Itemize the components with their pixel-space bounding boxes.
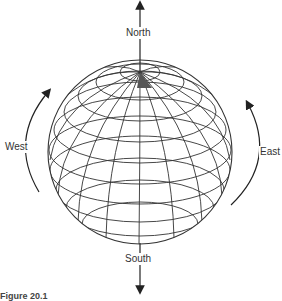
north-label: North bbox=[125, 27, 151, 39]
east-rotation-arrow bbox=[231, 104, 260, 205]
west-label: West bbox=[4, 141, 29, 153]
south-label: South bbox=[124, 253, 152, 265]
east-label: East bbox=[259, 146, 281, 158]
west-rotation-arrow bbox=[25, 92, 48, 192]
figure-caption: Figure 20.1 bbox=[0, 291, 48, 301]
